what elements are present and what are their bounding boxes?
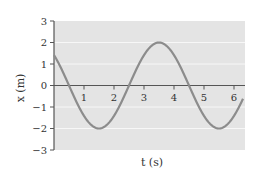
y-axis-label: x (m) bbox=[14, 74, 27, 103]
x-tick-label: 2 bbox=[111, 92, 117, 103]
y-axis: −3−2−10123 bbox=[32, 16, 54, 156]
y-tick-label: −3 bbox=[32, 145, 47, 156]
y-tick-label: 3 bbox=[41, 16, 47, 27]
x-axis-label: t (s) bbox=[141, 156, 163, 169]
y-tick-label: −1 bbox=[32, 102, 47, 113]
y-tick-label: 2 bbox=[41, 37, 47, 48]
x-tick-label: 3 bbox=[141, 92, 147, 103]
x-tick-label: 5 bbox=[201, 92, 207, 103]
chart: −3−2−10123 123456 t (s) x (m) bbox=[0, 0, 256, 176]
x-tick-label: 4 bbox=[171, 92, 177, 103]
x-tick-label: 1 bbox=[81, 92, 87, 103]
y-tick-label: −2 bbox=[32, 123, 47, 134]
y-tick-label: 1 bbox=[41, 59, 47, 70]
x-tick-label: 6 bbox=[231, 92, 237, 103]
y-tick-label: 0 bbox=[41, 80, 47, 91]
